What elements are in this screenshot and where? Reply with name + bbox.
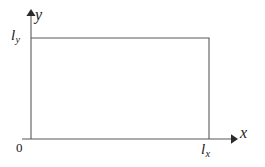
origin-label: 0 <box>16 141 23 154</box>
diagram-canvas <box>0 0 265 167</box>
width-label-subscript: x <box>206 148 211 159</box>
height-label-ly: ly <box>11 28 20 45</box>
x-axis-arrowhead <box>231 134 238 144</box>
height-label-base: l <box>11 27 15 43</box>
geometry-diagram: y x 0 ly lx <box>0 0 265 167</box>
y-axis-label: y <box>35 7 42 23</box>
width-label-base: l <box>201 141 205 157</box>
width-label-lx: lx <box>201 142 210 159</box>
x-axis-label: x <box>240 125 247 141</box>
height-label-subscript: y <box>16 34 21 45</box>
